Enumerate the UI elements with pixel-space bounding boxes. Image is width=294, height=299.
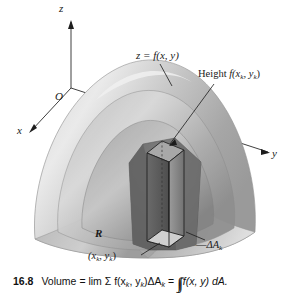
sample-point-mid: , y xyxy=(99,250,109,261)
delta-a-k-dash: — xyxy=(196,239,207,250)
riemann-prism xyxy=(147,141,184,247)
z-axis-label: z xyxy=(59,3,63,14)
height-close: ) xyxy=(257,68,261,79)
height-mid: , y xyxy=(243,68,253,79)
caption-tail: f(x, y) dA. xyxy=(180,275,228,287)
sample-point-label: (xk, yk) xyxy=(88,251,116,263)
x-axis-label: x xyxy=(17,125,22,136)
caption-equals: = xyxy=(165,275,177,287)
delta-a-k-label: —ΔAk xyxy=(196,240,222,252)
surface-diagram xyxy=(0,0,294,268)
surface-equation-text: z = f(x, y) xyxy=(136,49,179,61)
height-callout-label: Height f(xk, yk) xyxy=(198,69,260,81)
caption-lead: Volume = lim Σ f(x xyxy=(41,275,125,287)
height-func: f(x xyxy=(229,68,240,79)
caption-mid-b: )ΔA xyxy=(144,275,162,287)
height-word: Height xyxy=(198,68,229,79)
delta-a-k-sub: k xyxy=(219,244,222,252)
caption-mid-a: , y xyxy=(129,275,140,287)
delta-a-k-text: ΔA xyxy=(207,239,220,250)
figure-16-8: z x y O z = f(x, y) Height f(xk, yk) R —… xyxy=(0,0,294,299)
y-axis-label: y xyxy=(272,148,277,159)
region-r-label: R xyxy=(95,228,102,239)
z-axis-arrow xyxy=(68,20,74,29)
sample-point-open: (x xyxy=(88,250,96,261)
figure-caption: 16.8Volume = lim Σ f(xk, yk)ΔAk = ∫∫ f(x… xyxy=(13,275,228,293)
surface-equation-label: z = f(x, y) xyxy=(136,50,179,61)
origin-label: O xyxy=(55,91,63,102)
sample-point-close: ) xyxy=(112,250,116,261)
figure-number: 16.8 xyxy=(13,275,33,287)
y-axis-arrow xyxy=(261,149,270,155)
